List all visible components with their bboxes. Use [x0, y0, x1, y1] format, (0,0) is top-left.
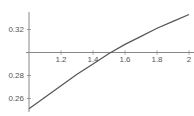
- x-tick-label: 1.2: [51, 56, 71, 64]
- x-tick-label: 1.8: [147, 56, 167, 64]
- x-tick-label: 1.4: [83, 56, 103, 64]
- y-tick-label: 0.26: [0, 95, 24, 103]
- x-tick-label: 2: [179, 56, 194, 64]
- x-tick-label: 1.6: [115, 56, 135, 64]
- y-tick-label: 0.28: [0, 72, 24, 80]
- y-tick-label: 0.32: [0, 26, 24, 34]
